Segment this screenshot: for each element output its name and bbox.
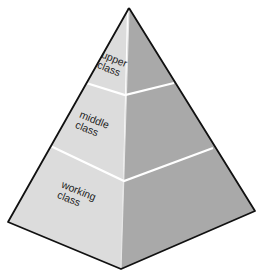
social-class-pyramid: upper class middle class working class bbox=[0, 0, 266, 280]
pyramid-shape bbox=[0, 0, 266, 280]
pyramid-right-face bbox=[121, 8, 255, 269]
